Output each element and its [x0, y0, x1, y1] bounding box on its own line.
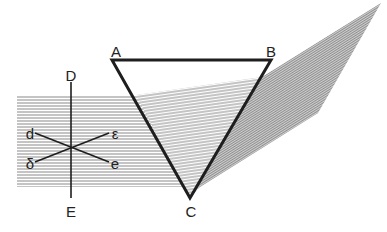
- cross-label-delta: δ: [26, 156, 34, 171]
- line-label-e: E: [66, 204, 76, 219]
- vertex-label-c: C: [186, 204, 197, 219]
- cross-label-d: d: [26, 126, 34, 141]
- line-label-d: D: [66, 68, 77, 83]
- vertex-label-b: B: [266, 44, 276, 59]
- diagram-graphic: [0, 0, 387, 232]
- prism-diagram: A B C D E d ε δ e: [0, 0, 387, 232]
- cross-label-epsilon: ε: [112, 126, 119, 141]
- cross-label-e: e: [111, 156, 119, 171]
- vertex-label-a: A: [111, 44, 121, 59]
